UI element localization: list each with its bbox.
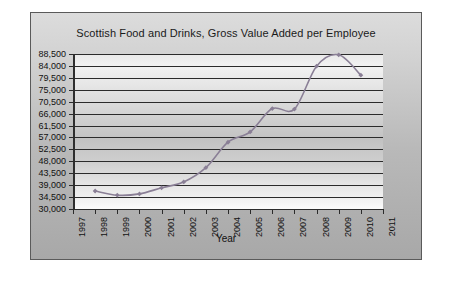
x-axis-tick — [250, 209, 251, 214]
y-axis-tick-label: 70,500 — [38, 97, 66, 107]
x-axis-tick — [228, 209, 229, 214]
y-axis-tick-label: 39,000 — [38, 180, 66, 190]
data-point-marker — [115, 193, 120, 198]
x-axis-tick — [383, 209, 384, 214]
x-axis-tick — [139, 209, 140, 214]
x-axis-tick — [73, 209, 74, 214]
data-point-marker — [336, 52, 341, 57]
data-point-marker — [93, 189, 98, 194]
x-axis-tick — [272, 209, 273, 214]
x-axis-tick — [162, 209, 163, 214]
x-axis-tick — [206, 209, 207, 214]
series-line — [95, 54, 361, 195]
data-series-line — [73, 54, 383, 209]
data-point-marker — [159, 185, 164, 190]
x-axis-tick — [317, 209, 318, 214]
y-axis-tick-label: 43,500 — [38, 168, 66, 178]
y-axis-tick-label: 34,500 — [38, 192, 66, 202]
chart-title: Scottish Food and Drinks, Gross Value Ad… — [31, 27, 421, 39]
plot-wrapper: 88,50084,00079,50075,00070,50066,00061,5… — [73, 54, 383, 209]
y-axis-tick-label: 48,000 — [38, 156, 66, 166]
y-axis-tick-label: 75,000 — [38, 85, 66, 95]
y-axis-tick-label: 30,000 — [38, 204, 66, 214]
x-axis-tick — [95, 209, 96, 214]
y-axis-tick-label: 79,500 — [38, 73, 66, 83]
y-axis-tick-label: 88,500 — [38, 49, 66, 59]
y-axis-tick-label: 84,000 — [38, 61, 66, 71]
y-axis-tick-label: 52,500 — [38, 144, 66, 154]
x-axis-tick — [361, 209, 362, 214]
y-axis-tick-label: 66,000 — [38, 109, 66, 119]
x-axis-tick — [339, 209, 340, 214]
chart-panel: Scottish Food and Drinks, Gross Value Ad… — [30, 12, 422, 260]
y-axis-tick-label: 61,500 — [38, 121, 66, 131]
x-axis-title: Year — [31, 233, 421, 244]
x-axis-tick — [184, 209, 185, 214]
y-axis-tick-label: 57,000 — [38, 132, 66, 142]
data-point-marker — [137, 191, 142, 196]
data-point-marker — [181, 180, 186, 185]
x-axis-tick — [294, 209, 295, 214]
x-axis-tick — [117, 209, 118, 214]
